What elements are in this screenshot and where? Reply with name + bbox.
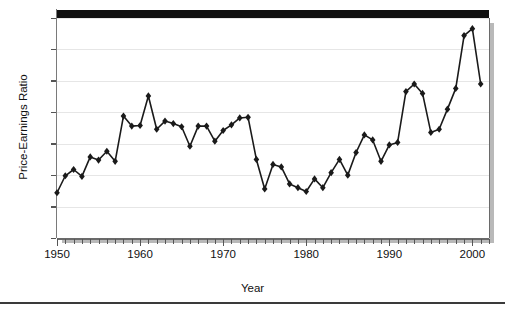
y-tick-mark-10 <box>51 175 56 177</box>
x-tick-1972 <box>240 239 241 244</box>
data-point-marker <box>87 153 93 160</box>
x-tick-1983 <box>331 239 332 244</box>
x-tick-label-1980: 1980 <box>293 248 319 260</box>
x-tick-1987 <box>364 239 365 244</box>
data-point-marker <box>187 143 193 150</box>
y-tick-mark-5 <box>51 206 56 208</box>
x-tick-1982 <box>323 239 324 244</box>
x-tick-1989 <box>381 239 382 244</box>
y-tick-mark-35 <box>51 18 56 20</box>
x-tick-1994 <box>423 239 424 244</box>
x-tick-1952 <box>74 239 75 244</box>
x-tick-1950 <box>57 239 58 246</box>
data-point-marker <box>170 120 176 127</box>
x-tick-label-1970: 1970 <box>210 248 236 260</box>
x-tick-1953 <box>82 239 83 244</box>
plot-shell: 195019601970198019902000 <box>57 18 489 238</box>
x-tick-1985 <box>348 239 349 244</box>
data-point-marker <box>245 114 251 121</box>
x-tick-1976 <box>273 239 274 244</box>
x-tick-1954 <box>90 239 91 244</box>
y-tick-mark-25 <box>51 80 56 82</box>
x-tick-1960 <box>140 239 141 246</box>
x-tick-1984 <box>339 239 340 244</box>
x-tick-1968 <box>207 239 208 244</box>
x-tick-1999 <box>464 239 465 244</box>
x-tick-1975 <box>265 239 266 244</box>
x-tick-1977 <box>281 239 282 244</box>
x-tick-1993 <box>414 239 415 244</box>
x-tick-1996 <box>439 239 440 244</box>
data-point-marker <box>395 139 401 146</box>
x-tick-2000 <box>472 239 473 246</box>
y-axis-title: Price-Earnings Ratio <box>17 57 29 197</box>
x-tick-1990 <box>389 239 390 246</box>
data-point-marker <box>295 184 301 191</box>
x-tick-1992 <box>406 239 407 244</box>
x-tick-1956 <box>107 239 108 244</box>
x-tick-label-1960: 1960 <box>127 248 153 260</box>
y-tick-mark-15 <box>51 143 56 145</box>
data-point-marker <box>137 122 143 129</box>
x-tick-1988 <box>373 239 374 244</box>
x-tick-1951 <box>65 239 66 244</box>
x-tick-1973 <box>248 239 249 244</box>
x-tick-1980 <box>306 239 307 246</box>
chart-figure: 05101520253035 Price-Earnings Ratio 1950… <box>0 0 505 310</box>
data-point-marker <box>436 126 442 133</box>
x-tick-1963 <box>165 239 166 244</box>
x-tick-1955 <box>99 239 100 244</box>
data-point-marker <box>195 123 201 130</box>
plot-area: 195019601970198019902000 <box>57 18 490 238</box>
x-tick-1961 <box>148 239 149 244</box>
x-tick-1995 <box>431 239 432 244</box>
series-markers-group <box>54 25 483 196</box>
x-tick-1986 <box>356 239 357 244</box>
data-point-marker <box>270 161 276 168</box>
series-plot <box>57 18 489 238</box>
data-point-marker <box>478 80 484 87</box>
x-tick-1970 <box>223 239 224 246</box>
x-tick-label-2000: 2000 <box>460 248 486 260</box>
x-tick-1964 <box>173 239 174 244</box>
x-tick-1966 <box>190 239 191 244</box>
y-tick-mark-30 <box>51 49 56 51</box>
data-point-marker <box>445 106 451 113</box>
data-point-marker <box>370 136 376 143</box>
x-tick-1967 <box>198 239 199 244</box>
data-point-marker <box>254 156 260 163</box>
x-tick-1998 <box>456 239 457 244</box>
x-tick-1978 <box>290 239 291 244</box>
data-point-marker <box>262 185 268 192</box>
x-tick-label-1950: 1950 <box>44 248 70 260</box>
x-tick-1974 <box>256 239 257 244</box>
x-tick-1991 <box>398 239 399 244</box>
bottom-rule <box>0 302 505 304</box>
y-tick-mark-20 <box>51 112 56 114</box>
x-tick-1957 <box>115 239 116 244</box>
x-tick-2002 <box>489 239 490 244</box>
x-tick-label-1990: 1990 <box>377 248 403 260</box>
data-point-marker <box>179 123 185 130</box>
series-line-price-earnings <box>57 29 481 193</box>
x-tick-1962 <box>157 239 158 244</box>
data-point-marker <box>146 92 152 99</box>
data-point-marker <box>428 129 434 136</box>
x-tick-1958 <box>123 239 124 244</box>
x-tick-1971 <box>231 239 232 244</box>
x-tick-1981 <box>315 239 316 244</box>
data-point-marker <box>453 85 459 92</box>
x-tick-1979 <box>298 239 299 244</box>
x-tick-1965 <box>182 239 183 244</box>
x-tick-1997 <box>447 239 448 244</box>
x-tick-2001 <box>481 239 482 244</box>
x-tick-1969 <box>215 239 216 244</box>
y-tick-mark-0 <box>51 238 56 240</box>
x-axis-title: Year <box>0 282 505 294</box>
x-tick-1959 <box>132 239 133 244</box>
